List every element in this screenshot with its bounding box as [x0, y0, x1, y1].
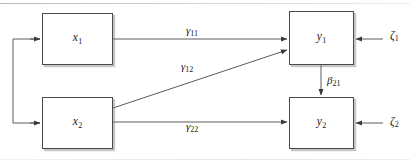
path-subscript-gamma22: 22 [190, 125, 198, 134]
path-subscript-gamma11: 11 [190, 29, 198, 38]
path-subscript-beta21: 21 [332, 79, 340, 88]
disturbance-label-zeta2: ζ2 [390, 116, 399, 129]
path-subscript-gamma12: 12 [185, 65, 193, 74]
path-arrow-gamma12 [113, 50, 287, 108]
disturbance-label-zeta1: ζ1 [390, 30, 399, 43]
disturbance-subscript-zeta1: 1 [395, 34, 399, 43]
node-label-y1: y1 [317, 31, 326, 44]
node-label-x1: x1 [73, 32, 82, 45]
disturbance-subscript-zeta2: 2 [395, 120, 399, 129]
path-label-gamma12: γ12 [181, 61, 193, 74]
node-subscript-x2: 2 [78, 121, 82, 130]
node-subscript-y2: 2 [322, 121, 326, 130]
node-box-y2: y2 [289, 97, 354, 149]
path-label-gamma22: γ22 [186, 121, 198, 134]
node-subscript-x1: 1 [78, 37, 82, 46]
node-box-y1: y1 [289, 11, 354, 65]
node-label-y2: y2 [317, 116, 326, 129]
path-diagram-figure: x1 x2 y1 y2 γ11 γ12 γ22 β21 ζ1 ζ2 [0, 0, 410, 163]
path-label-gamma11: γ11 [186, 25, 198, 38]
path-label-beta21: β21 [327, 75, 340, 88]
node-subscript-y1: 1 [322, 36, 326, 45]
node-label-x2: x2 [73, 116, 82, 129]
node-box-x2: x2 [42, 97, 113, 149]
covariance-bracket-x1-x2 [13, 39, 40, 123]
node-box-x1: x1 [42, 13, 113, 65]
